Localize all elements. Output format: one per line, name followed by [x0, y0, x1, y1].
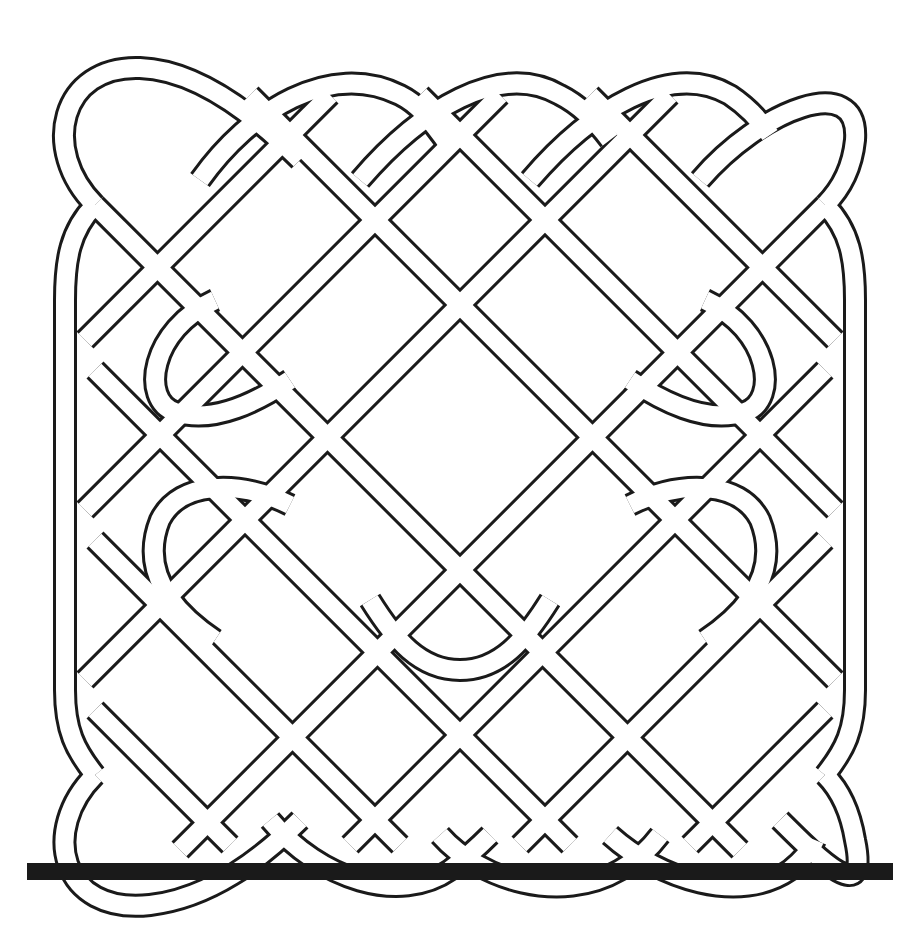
base-bar: [27, 863, 893, 880]
knot-band-fill: [700, 103, 855, 205]
knot-band-fill: [690, 710, 825, 845]
celtic-knot-drawing: [0, 0, 920, 946]
knot-band-fill: [420, 95, 835, 510]
